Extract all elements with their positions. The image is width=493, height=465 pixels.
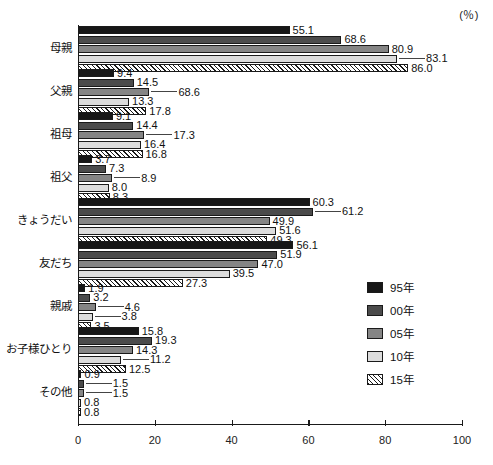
bar[interactable] <box>78 294 90 302</box>
bar-value-label: 19.3 <box>155 334 176 346</box>
bar[interactable] <box>78 141 141 149</box>
x-tick-label: 60 <box>302 434 314 446</box>
bar[interactable] <box>78 69 114 77</box>
bar[interactable] <box>78 313 93 321</box>
bar-value-label: 60.3 <box>313 196 334 208</box>
bar[interactable] <box>78 198 310 206</box>
bar-group: 祖母9.114.417.316.416.8 <box>78 112 462 160</box>
bar[interactable] <box>78 55 397 63</box>
bar[interactable] <box>78 45 389 53</box>
table-row: 0.8 <box>78 408 462 416</box>
bar-group: きょうだい60.361.249.951.649.3 <box>78 198 462 246</box>
x-tick-label: 0 <box>75 434 81 446</box>
category-label: 友だち <box>39 257 72 269</box>
legend-item[interactable]: 00年 <box>367 302 414 318</box>
bar[interactable] <box>78 327 139 335</box>
x-tick <box>385 420 386 426</box>
table-row: 83.1 <box>78 55 462 63</box>
leader-line <box>399 58 425 59</box>
legend-label: 00年 <box>390 302 414 318</box>
bar[interactable] <box>78 241 293 249</box>
table-row: 49.9 <box>78 217 462 225</box>
bar[interactable] <box>78 131 144 139</box>
bar-value-label: 80.9 <box>392 43 413 55</box>
bar[interactable] <box>78 260 258 268</box>
bar[interactable] <box>78 79 134 87</box>
table-row: 0.8 <box>78 399 462 407</box>
bar-value-label: 3.8 <box>122 310 137 322</box>
x-tick-label: 100 <box>453 434 471 446</box>
bar-value-label: 51.9 <box>280 248 301 260</box>
bar[interactable] <box>78 389 84 397</box>
table-row: 56.1 <box>78 241 462 249</box>
bar-value-label: 55.1 <box>293 24 314 36</box>
legend-label: 05年 <box>390 325 414 341</box>
bar[interactable] <box>78 26 290 34</box>
legend-item[interactable]: 95年 <box>367 279 414 295</box>
bar[interactable] <box>78 356 121 364</box>
bar-value-label: 17.3 <box>173 129 194 141</box>
legend-swatch-icon <box>367 374 383 385</box>
legend-label: 10年 <box>390 348 414 364</box>
table-row: 39.5 <box>78 270 462 278</box>
bar-value-label: 8.9 <box>141 172 156 184</box>
bar[interactable] <box>78 346 133 354</box>
bar[interactable] <box>78 112 113 120</box>
leader-line <box>123 359 149 360</box>
leader-line <box>98 306 124 307</box>
bar[interactable] <box>78 284 85 292</box>
legend-item[interactable]: 10年 <box>367 348 414 364</box>
bar[interactable] <box>78 399 81 407</box>
bar-chart: (％) 020406080100 母親55.168.680.983.186.0父… <box>0 0 493 465</box>
bar[interactable] <box>78 174 112 182</box>
bar[interactable] <box>78 184 109 192</box>
bar-value-label: 68.6 <box>344 33 365 45</box>
table-row: 8.9 <box>78 174 462 182</box>
legend-label: 15年 <box>390 371 414 387</box>
bar-value-label: 11.2 <box>150 353 171 365</box>
bar[interactable] <box>78 165 106 173</box>
table-row: 1.5 <box>78 389 462 397</box>
bar-value-label: 39.5 <box>233 267 254 279</box>
bar-value-label: 14.5 <box>137 76 158 88</box>
x-tick-label: 40 <box>225 434 237 446</box>
bar[interactable] <box>78 370 81 378</box>
bar-value-label: 0.9 <box>84 368 99 380</box>
bar-value-label: 9.4 <box>117 67 132 79</box>
x-tick <box>78 420 79 426</box>
bar[interactable] <box>78 380 84 388</box>
x-tick <box>308 420 309 426</box>
bar-group: 母親55.168.680.983.186.0 <box>78 26 462 74</box>
category-label: 祖父 <box>50 171 72 183</box>
bar-group: 祖父3.77.38.98.08.3 <box>78 155 462 203</box>
bar[interactable] <box>78 217 270 225</box>
legend-item[interactable]: 05年 <box>367 325 414 341</box>
leader-line <box>315 211 341 212</box>
bar[interactable] <box>78 155 92 163</box>
bar[interactable] <box>78 98 129 106</box>
legend-item[interactable]: 15年 <box>367 371 414 387</box>
table-row: 14.5 <box>78 79 462 87</box>
legend-swatch-icon <box>367 282 383 293</box>
leader-line <box>146 134 172 135</box>
bar[interactable] <box>78 36 341 44</box>
leader-line <box>95 316 121 317</box>
leader-line <box>114 177 140 178</box>
x-tick-label: 80 <box>379 434 391 446</box>
bar[interactable] <box>78 122 133 130</box>
bar[interactable] <box>78 408 81 416</box>
leader-line <box>86 392 112 393</box>
bar[interactable] <box>78 251 277 259</box>
category-label: 親戚 <box>50 300 72 312</box>
table-row: 3.7 <box>78 155 462 163</box>
bar[interactable] <box>78 303 96 311</box>
x-tick <box>232 420 233 426</box>
bar-value-label: 3.2 <box>93 291 108 303</box>
table-row: 61.2 <box>78 208 462 216</box>
bar-value-label: 47.0 <box>261 258 282 270</box>
table-row: 9.4 <box>78 69 462 77</box>
table-row: 55.1 <box>78 26 462 34</box>
table-row: 13.3 <box>78 98 462 106</box>
category-label: 父親 <box>50 85 72 97</box>
bar[interactable] <box>78 227 276 235</box>
